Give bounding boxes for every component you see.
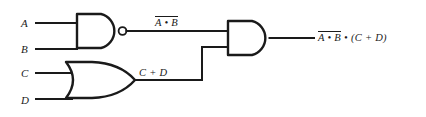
final-output-plain-term: • (C + D) [341, 32, 387, 43]
nand-gate-body [77, 14, 114, 48]
final-output-label: A • B • (C + D) [318, 31, 387, 44]
logic-circuit-diagram: A B C D A • B C + D A • B • (C + D) [0, 0, 426, 117]
or-gate-body [66, 62, 135, 98]
input-label-c: C [21, 68, 28, 79]
input-label-a: A [21, 18, 28, 29]
or-output-label: C + D [139, 68, 167, 79]
final-output-overbar-term: A • B [318, 31, 341, 44]
input-label-b: B [21, 44, 28, 55]
input-label-d: D [21, 95, 29, 106]
nand-inversion-bubble-icon [119, 27, 127, 35]
and-gate-body [228, 21, 265, 55]
nand-output-overbar-term: A • B [155, 16, 178, 29]
circuit-svg [0, 0, 426, 117]
nand-output-label: A • B [155, 16, 178, 29]
